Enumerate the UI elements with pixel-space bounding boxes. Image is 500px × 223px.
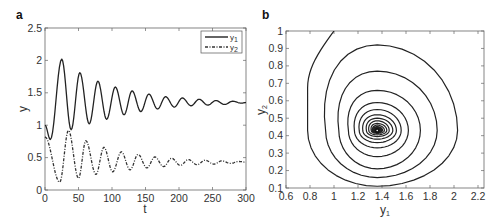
panel-a-label: a: [16, 8, 23, 22]
x-tick-label: 1.4: [375, 190, 390, 202]
panel-a: a 05010015020025030000.511.522.5 t y y1 …: [16, 8, 255, 216]
y-tick-label: 1: [36, 119, 42, 131]
panel-b-ticks: 0.60.811.21.41.61.822.20.10.20.30.40.50.…: [268, 25, 485, 203]
equilibrium-center: [376, 130, 378, 132]
x-tick-label: 200: [170, 192, 188, 204]
y-tick-label: 0.3: [268, 147, 283, 159]
x-tick-label: 1.8: [423, 190, 438, 202]
x-tick-label: 0: [42, 192, 48, 204]
x-tick-label: 50: [73, 192, 85, 204]
panel-a-xlabel: t: [143, 202, 147, 216]
x-tick-label: 2: [451, 190, 457, 202]
y-tick-label: 0.6: [268, 94, 283, 106]
panel-b-xlabel: y1: [380, 203, 390, 217]
phase-trajectory: [308, 31, 458, 186]
panel-b-curves: [308, 31, 458, 186]
y-tick-label: 0.5: [268, 112, 283, 124]
series-y1-line: [45, 59, 246, 139]
y-tick-label: 2: [36, 54, 42, 66]
x-tick-label: 300: [237, 192, 255, 204]
y-tick-label: 0.1: [268, 182, 283, 194]
legend: y1 y2: [201, 31, 242, 53]
y-tick-label: 2.5: [27, 22, 42, 34]
panel-b-ylabel: y2: [254, 105, 268, 115]
y-tick-label: 0.9: [268, 42, 283, 54]
y-tick-label: 0.4: [268, 129, 283, 141]
panel-a-curves: [45, 59, 246, 182]
x-tick-label: 250: [204, 192, 222, 204]
y-tick-label: 0.7: [268, 77, 283, 89]
y-tick-label: 0.2: [268, 164, 283, 176]
panel-b: b 0.60.811.21.41.61.822.20.10.20.30.40.5…: [254, 8, 485, 217]
x-tick-label: 100: [103, 192, 121, 204]
y-tick-label: 1.5: [27, 86, 42, 98]
panel-b-label: b: [262, 8, 269, 22]
y-tick-label: 0.5: [27, 151, 42, 163]
x-tick-label: 1: [331, 190, 337, 202]
x-tick-label: 1.6: [399, 190, 414, 202]
x-tick-label: 2.2: [471, 190, 486, 202]
y-tick-label: 1: [277, 25, 283, 37]
x-tick-label: 0.8: [303, 190, 318, 202]
panel-a-ylabel: y: [16, 106, 30, 112]
y-tick-label: 0: [36, 184, 42, 196]
y-tick-label: 0.8: [268, 59, 283, 71]
series-y2-line: [45, 130, 246, 182]
figure: a 05010015020025030000.511.522.5 t y y1 …: [0, 0, 500, 223]
x-tick-label: 1.2: [351, 190, 366, 202]
